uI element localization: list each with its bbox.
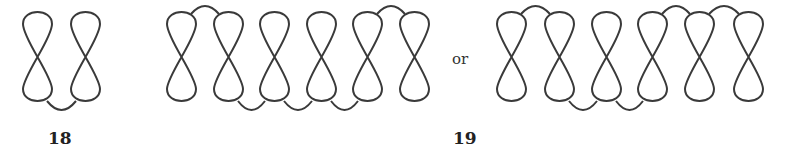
figure-eight-loop xyxy=(400,12,429,101)
figure-eight-loop xyxy=(592,12,621,101)
figure-19-variant-a-drawing xyxy=(167,6,429,110)
top-connecting-arc xyxy=(521,6,550,14)
figure-eight-loop xyxy=(307,12,336,101)
figure-label-19: 19 xyxy=(453,128,477,148)
figure-eight-loop xyxy=(260,12,289,101)
figure-eight-loop xyxy=(545,12,574,101)
figure-19-variant-b-drawing xyxy=(497,6,763,110)
top-connecting-arc xyxy=(662,6,690,14)
figure-label-18: 18 xyxy=(48,128,72,148)
bottom-connecting-arc xyxy=(47,101,76,110)
figure-eight-loop xyxy=(497,12,526,101)
figure-eight-loop xyxy=(353,12,382,101)
top-connecting-arc xyxy=(191,6,219,14)
figure-eight-loop xyxy=(638,12,667,101)
bottom-connecting-arc xyxy=(238,101,265,110)
figure-eight-loop xyxy=(71,12,100,101)
figure-eight-loop xyxy=(214,12,243,101)
figure-eight-loop xyxy=(734,12,763,101)
figure-eight-loop xyxy=(23,12,52,101)
bottom-connecting-arc xyxy=(331,101,358,110)
bottom-connecting-arc xyxy=(616,101,643,110)
figure-eight-loop xyxy=(685,12,714,101)
bottom-connecting-arc xyxy=(284,101,312,110)
top-connecting-arc xyxy=(377,6,405,14)
top-connecting-arc xyxy=(709,6,739,14)
bottom-connecting-arc xyxy=(569,101,597,110)
figure-eight-loop xyxy=(167,12,196,101)
figure-eight-diagram xyxy=(0,0,786,155)
or-connector-text: or xyxy=(452,50,468,68)
figure-18-drawing xyxy=(23,12,100,110)
